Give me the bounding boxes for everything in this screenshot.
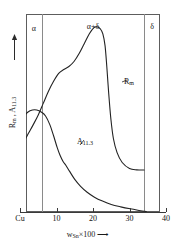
- y-axis-label: Rm , A11.3: [8, 77, 17, 149]
- y-axis-arrow-icon: [10, 34, 19, 60]
- curve-label-rm-sub: m: [129, 80, 134, 86]
- x-axis-line: [20, 212, 166, 213]
- y-axis-label-a-main: A: [8, 107, 17, 113]
- curve-label-rm: Rm: [124, 77, 134, 86]
- y-axis-label-sep: ,: [8, 113, 17, 119]
- x-axis-tick-label: 20: [81, 214, 105, 223]
- annotation-leaders: [26, 14, 160, 212]
- y-axis-label-rm-sub: m: [11, 118, 17, 123]
- x-axis-tick-label: Cu: [8, 214, 32, 223]
- x-caption-rest: ×100: [79, 230, 96, 239]
- y-axis-label-rm-main: R: [8, 123, 17, 128]
- x-axis-tick-label: 40: [154, 214, 174, 223]
- x-axis-caption: wSn×100 ⟶: [0, 230, 174, 239]
- x-axis-tick-label: 10: [45, 214, 69, 223]
- curve-label-a113: A11.3: [77, 137, 93, 146]
- x-axis-tick-label: 30: [118, 214, 142, 223]
- y-axis-label-a-sub: 11.3: [11, 97, 17, 107]
- x-axis-tick: [166, 208, 167, 212]
- x-caption-arrow-icon: ⟶: [97, 230, 107, 239]
- x-axis-tick: [93, 208, 94, 212]
- x-axis-tick: [57, 208, 58, 212]
- x-axis-tick: [20, 208, 21, 212]
- x-axis-tick-labels: Cu10203040: [0, 214, 174, 226]
- x-axis-tick: [130, 208, 131, 212]
- curve-label-a113-sub: 11.3: [83, 140, 93, 146]
- chart-figure: Rm , A11.3 α α+δ δ Rm A11.3 Cu10203040 w…: [0, 0, 174, 251]
